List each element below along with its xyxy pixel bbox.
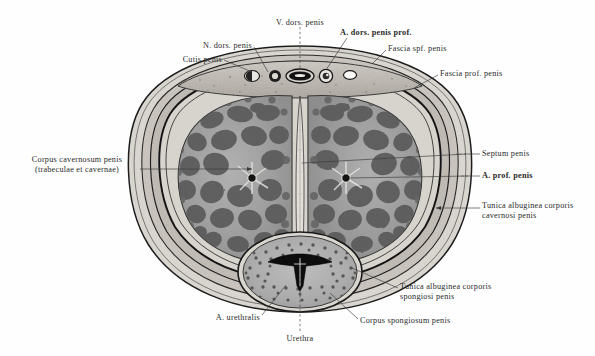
label-fascia-spf-penis: Fascia spf. penis	[388, 44, 488, 54]
label-v-dors-penis: V. dors. penis	[258, 18, 342, 28]
a-dors-penis-left	[269, 70, 281, 82]
label-corpus-cavernosum-penis: Corpus cavernosum penis (trabeculae et c…	[18, 155, 136, 175]
label-a-prof-penis: A. prof. penis	[482, 171, 568, 181]
dorsal-vessel-right	[344, 71, 357, 80]
label-corpus-spongiosum-penis: Corpus spongiosum penis	[360, 316, 484, 326]
label-a-urethralis: A. urethralis	[188, 313, 260, 323]
label-tunica-albuginea-spongiosi: Tunica albuginea corporis spongiosi peni…	[400, 282, 516, 302]
v-dors-penis-vessel	[286, 69, 314, 83]
label-fascia-prof-penis: Fascia prof. penis	[440, 69, 544, 79]
label-a-dors-penis-prof: A. dors. penis prof.	[340, 28, 456, 38]
dorsal-vessel-left	[245, 71, 260, 82]
label-tunica-albuginea-cavernosi: Tunica albuginea corporis cavernosi peni…	[482, 201, 594, 221]
label-cutis-penis: Cutis penis	[130, 55, 222, 65]
figure-canvas: Cutis penis N. dors. penis V. dors. peni…	[0, 0, 595, 356]
label-urethra: Urethra	[272, 334, 328, 344]
a-dors-penis-prof-vessel	[319, 69, 332, 82]
label-septum-penis: Septum penis	[482, 149, 568, 159]
label-n-dors-penis: N. dors. penis	[150, 41, 252, 51]
